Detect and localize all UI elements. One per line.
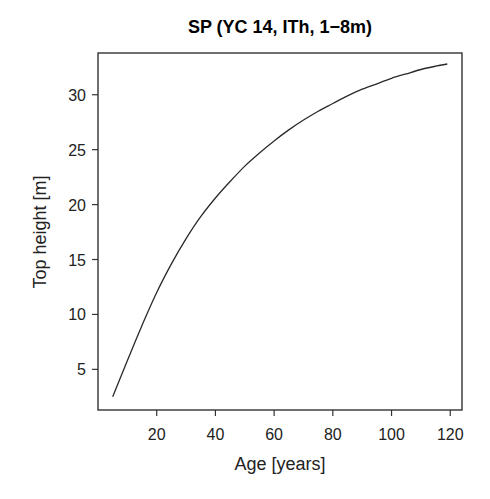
y-tick-label: 5: [77, 361, 86, 378]
line-chart: SP (YC 14, ITh, 1−8m) 51015202530 204060…: [0, 0, 490, 499]
y-axis: 51015202530: [68, 87, 98, 379]
x-tick-label: 60: [265, 426, 283, 443]
x-axis-label: Age [years]: [234, 454, 325, 474]
x-tick-label: 120: [437, 426, 464, 443]
y-tick-label: 15: [68, 252, 86, 269]
x-tick-label: 20: [148, 426, 166, 443]
plot-area-frame: [98, 53, 462, 410]
x-axis: 20406080100120: [148, 410, 464, 443]
y-tick-label: 20: [68, 197, 86, 214]
series-line-top-height: [113, 64, 448, 397]
y-tick-label: 10: [68, 306, 86, 323]
y-tick-label: 25: [68, 142, 86, 159]
chart-title: SP (YC 14, ITh, 1−8m): [188, 17, 372, 37]
x-tick-label: 80: [324, 426, 342, 443]
x-tick-label: 100: [378, 426, 405, 443]
y-tick-label: 30: [68, 87, 86, 104]
x-tick-label: 40: [207, 426, 225, 443]
y-axis-label: Top height [m]: [30, 175, 50, 288]
